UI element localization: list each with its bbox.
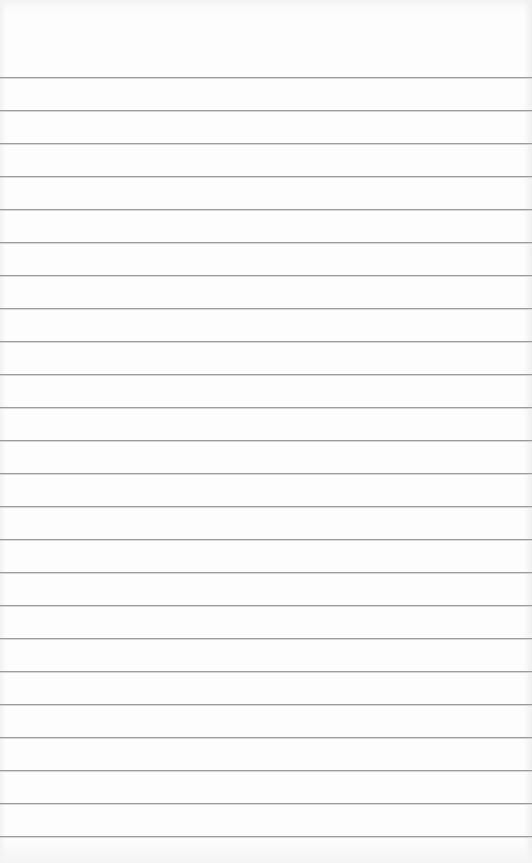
ruled-line [0, 638, 532, 639]
ruled-line [0, 770, 532, 771]
ruled-line [0, 671, 532, 672]
ruled-line [0, 77, 532, 78]
ruled-line [0, 275, 532, 276]
ruled-line [0, 110, 532, 111]
ruled-line [0, 836, 532, 837]
ruled-line [0, 176, 532, 177]
ruled-line [0, 605, 532, 606]
ruled-line [0, 506, 532, 507]
right-edge-shadow [524, 0, 532, 863]
ruled-line [0, 374, 532, 375]
ruled-line [0, 737, 532, 738]
ruled-line [0, 473, 532, 474]
ruled-line [0, 143, 532, 144]
ruled-line [0, 407, 532, 408]
ruled-line [0, 308, 532, 309]
top-edge-shadow [0, 0, 532, 12]
left-edge-shadow [0, 0, 6, 863]
ruled-line [0, 209, 532, 210]
ruled-line [0, 539, 532, 540]
ruled-line [0, 242, 532, 243]
ruled-line [0, 572, 532, 573]
ruled-line [0, 440, 532, 441]
ruled-line [0, 803, 532, 804]
ruled-line [0, 341, 532, 342]
bottom-edge-shadow [0, 839, 532, 863]
ruled-line [0, 704, 532, 705]
lined-paper-page [0, 0, 532, 863]
